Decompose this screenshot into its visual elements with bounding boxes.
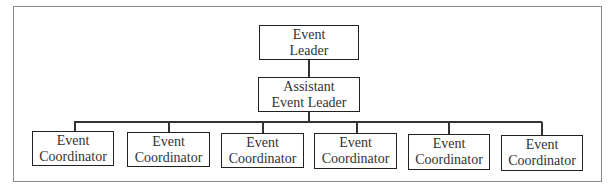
event-coordinator-box-5: Event Coordinator (408, 134, 490, 170)
connector-drop-6 (541, 122, 543, 135)
connector-leader-assistant (308, 60, 310, 77)
connector-drop-3 (262, 122, 264, 133)
coordinator-line1: Event (57, 133, 90, 149)
assistant-event-leader-box: Assistant Event Leader (258, 77, 360, 112)
connector-horizontal-bus (74, 121, 542, 123)
assistant-line1: Assistant (283, 79, 334, 95)
event-leader-line2: Leader (290, 43, 329, 59)
event-coordinator-box-6: Event Coordinator (501, 135, 583, 171)
connector-drop-5 (448, 122, 450, 134)
event-leader-box: Event Leader (259, 25, 359, 60)
event-coordinator-box-4: Event Coordinator (314, 133, 397, 169)
coordinator-line1: Event (246, 135, 279, 151)
event-coordinator-box-2: Event Coordinator (127, 132, 210, 167)
coordinator-line2: Coordinator (415, 152, 483, 168)
coordinator-line2: Coordinator (135, 150, 203, 166)
connector-drop-1 (74, 121, 76, 131)
coordinator-line2: Coordinator (508, 153, 576, 169)
event-coordinator-box-3: Event Coordinator (221, 133, 304, 168)
coordinator-line1: Event (152, 134, 185, 150)
connector-drop-2 (168, 121, 170, 132)
event-coordinator-box-1: Event Coordinator (32, 131, 114, 166)
event-leader-line1: Event (293, 27, 326, 43)
coordinator-line2: Coordinator (39, 149, 107, 165)
coordinator-line1: Event (526, 137, 559, 153)
assistant-line2: Event Leader (271, 95, 346, 111)
coordinator-line2: Coordinator (229, 151, 297, 167)
coordinator-line1: Event (339, 135, 372, 151)
coordinator-line2: Coordinator (322, 151, 390, 167)
connector-drop-4 (356, 122, 358, 133)
coordinator-line1: Event (433, 136, 466, 152)
